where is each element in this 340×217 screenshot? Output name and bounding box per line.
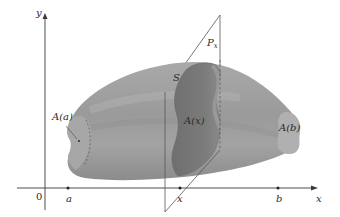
tick-b-point [277, 187, 280, 190]
plane-label-subscript: x [214, 42, 218, 50]
tick-label-a: a [66, 194, 72, 204]
solid-cross-section-diagram: y x 0 a x b S Px A(x) A(a) A(b) [0, 0, 340, 217]
tick-a-point [67, 187, 70, 190]
x-axis-arrow-icon [311, 186, 318, 191]
left-end-point [78, 140, 80, 142]
plane-label: Px [207, 38, 218, 50]
plane-label-main: P [207, 37, 214, 48]
y-axis-label: y [36, 8, 42, 18]
diagram-canvas [0, 0, 340, 217]
right-end-cap [277, 112, 300, 154]
y-axis-arrow-icon [43, 13, 48, 19]
left-end-label: A(a) [52, 112, 73, 122]
right-end-label: A(b) [279, 123, 300, 133]
x-axis [17, 186, 318, 191]
solid-label-s: S [173, 73, 180, 83]
tick-x-point [179, 187, 182, 190]
tick-label-b: b [276, 194, 282, 204]
y-axis [43, 13, 48, 210]
x-axis-label: x [316, 194, 322, 204]
origin-label: 0 [36, 192, 42, 202]
cross-section-label: A(x) [184, 116, 205, 126]
tick-label-x: x [177, 194, 183, 204]
